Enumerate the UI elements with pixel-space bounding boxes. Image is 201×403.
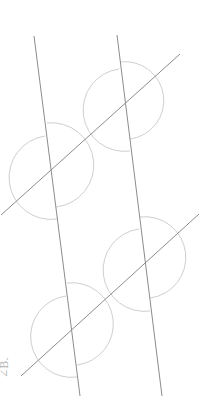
diagonal-1 (1, 54, 180, 215)
arc-ur-right (120, 62, 164, 139)
arc-lr-right (140, 217, 186, 298)
arc-ul-left (9, 136, 57, 219)
arc-ll-right (67, 283, 113, 365)
line-a (34, 36, 80, 396)
compass-arcs (9, 62, 186, 378)
line-b (117, 35, 162, 396)
geometry-diagram (0, 0, 201, 403)
diagonal-2 (21, 214, 199, 376)
angle-label: ∠B. (0, 357, 11, 378)
arc-ll-left (31, 296, 77, 377)
